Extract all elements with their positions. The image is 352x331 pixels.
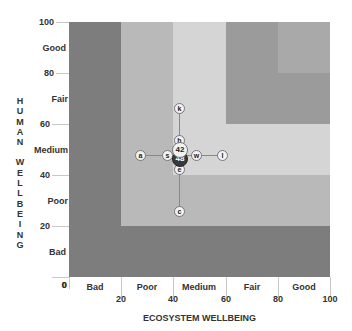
- y-title-letter: H: [14, 96, 26, 106]
- y-label-80: 80: [30, 68, 54, 78]
- y-title-letter: E: [14, 209, 26, 219]
- y-label-100: 100: [30, 17, 54, 27]
- y-tick-60: [52, 124, 69, 125]
- x-label-100: 100: [318, 294, 342, 304]
- y-title-letter: B: [14, 199, 26, 209]
- y-title-letter: L: [14, 188, 26, 198]
- y-tick-40: [52, 175, 69, 176]
- x-axis-title: ECOSYSTEM WELLBEING: [69, 313, 330, 323]
- x-category-bad: Bad: [69, 282, 121, 292]
- x-category-good: Good: [278, 282, 330, 292]
- y-tick-100: [56, 22, 69, 23]
- y-title-letter: M: [14, 117, 26, 127]
- zone-good: [278, 22, 330, 73]
- y-title-spacer: [14, 147, 26, 157]
- marker-w[interactable]: w: [191, 150, 202, 161]
- x-category-medium: Medium: [173, 282, 225, 292]
- y-axis-title: H U M A N W E L L B E I N G: [14, 96, 26, 250]
- marker-c[interactable]: c: [174, 206, 185, 217]
- y-label-40: 40: [26, 170, 50, 180]
- y-title-letter: U: [14, 106, 26, 116]
- y-title-letter: W: [14, 157, 26, 167]
- x-category-poor: Poor: [121, 282, 173, 292]
- y-tick-0: [52, 277, 69, 278]
- marker-a[interactable]: a: [135, 150, 146, 161]
- plot-area: a s w l k h e c 48 42: [69, 22, 330, 277]
- marker-overall-ecosystem[interactable]: 42: [172, 142, 188, 158]
- x-label-80: 80: [266, 294, 290, 304]
- y-tick-20: [52, 226, 69, 227]
- y-title-letter: G: [14, 240, 26, 250]
- y-title-letter: E: [14, 168, 26, 178]
- y-label-20: 20: [26, 221, 50, 231]
- y-title-letter: I: [14, 219, 26, 229]
- y-tick-80: [56, 73, 69, 74]
- y-title-letter: L: [14, 178, 26, 188]
- marker-k[interactable]: k: [174, 103, 185, 114]
- x-label-20: 20: [109, 294, 133, 304]
- y-title-letter: A: [14, 127, 26, 137]
- y-label-60: 60: [26, 119, 50, 129]
- x-label-40: 40: [161, 294, 185, 304]
- x-category-fair: Fair: [226, 282, 278, 292]
- y-title-letter: N: [14, 230, 26, 240]
- marker-l[interactable]: l: [217, 150, 228, 161]
- y-category-good: Good: [16, 43, 66, 53]
- x-label-60: 60: [214, 294, 238, 304]
- y-title-letter: N: [14, 137, 26, 147]
